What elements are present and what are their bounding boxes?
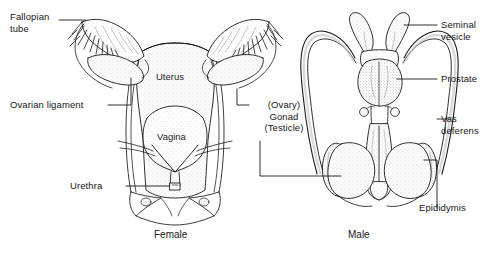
left-bulbourethral-gland [360,108,369,117]
label-epididymis: Epididymis [419,202,466,214]
label-ovarian-ligament: Ovarian ligament [10,99,83,111]
label-fallopian-tube: Fallopian tube [10,11,49,34]
prostate [358,59,402,106]
label-vas-deferens: Vas deferens [441,113,479,136]
label-prostate: Prostate [441,73,477,85]
caption-male: Male [348,229,370,240]
ejaculatory-duct [371,106,388,126]
left-seminal-vesicle [349,13,373,55]
label-vagina: Vagina [157,131,186,142]
label-seminal-vesicle: Seminal vesicle [441,19,476,42]
caption-female: Female [154,229,187,240]
label-gonad: (Ovary) Gonad (Testicle) [251,99,317,134]
urethra-opening [170,183,180,190]
label-uterus: Uterus [156,71,184,82]
right-seminal-vesicle [386,13,410,55]
reproductive-systems-figure: Fallopian tube Ovarian ligament Urethra … [0,0,494,253]
leader-ovary [237,89,249,105]
left-testicle [328,143,375,199]
anatomy-illustration [0,0,494,253]
male-anatomy [301,13,458,207]
right-bulbourethral-gland [391,108,400,117]
label-urethra: Urethra [70,180,102,192]
right-testicle [384,143,431,199]
